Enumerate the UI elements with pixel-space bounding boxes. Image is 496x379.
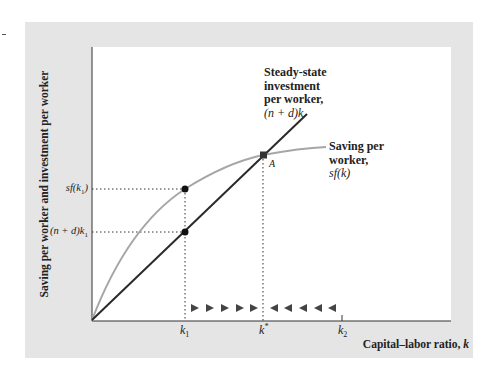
left-arrow-icon xyxy=(328,304,336,312)
x-tick-k2: k2 xyxy=(338,323,347,339)
saving-curve-label: Saving per worker, sf(k) xyxy=(329,140,384,181)
x-tick-k1: k1 xyxy=(180,323,189,339)
y-tick-sfk1-text: sf(k xyxy=(66,182,81,193)
x-axis-title-var: k xyxy=(463,338,469,350)
investment-label-line1: Steady-state xyxy=(264,66,327,80)
y-tick-sfk1-close: ) xyxy=(85,182,89,193)
x-tick-k1-sub: 1 xyxy=(185,330,189,339)
left-arrow-icon xyxy=(270,304,278,312)
steady-state-point-a xyxy=(260,152,267,159)
left-arrows xyxy=(270,304,336,312)
investment-line xyxy=(92,114,307,320)
saving-label-formula: sf(k) xyxy=(329,167,384,181)
saving-label-line2: worker, xyxy=(329,154,384,168)
y-tick-ndk1-sub: 1 xyxy=(85,231,89,239)
y-tick-sfk1: sf(k1) xyxy=(46,182,88,196)
left-arrow-icon xyxy=(314,304,322,312)
right-arrows xyxy=(191,304,258,312)
investment-line-label: Steady-state investment per worker, (n +… xyxy=(264,66,327,120)
x-tick-kstar-sup: * xyxy=(264,322,268,331)
y-tick-ndk1-text: (n + d)k xyxy=(50,225,85,236)
right-arrow-icon xyxy=(206,304,214,312)
right-arrow-icon xyxy=(250,304,258,312)
x-axis-title: Capital–labor ratio, k xyxy=(363,338,469,350)
saving-curve xyxy=(92,147,326,320)
right-arrow-icon xyxy=(236,304,244,312)
investment-label-formula: (n + d)k xyxy=(264,107,327,121)
saving-label-line1: Saving per xyxy=(329,140,384,154)
left-arrow-icon xyxy=(299,304,307,312)
investment-label-line2: investment xyxy=(264,80,327,94)
ndk1-point xyxy=(182,229,189,236)
left-arrow-icon xyxy=(284,304,292,312)
sfk1-point xyxy=(182,186,189,193)
x-tick-kstar: k* xyxy=(259,322,268,338)
y-tick-ndk1: (n + d)k1 xyxy=(38,225,88,239)
right-arrow-icon xyxy=(221,304,229,312)
x-axis-title-text: Capital–labor ratio, xyxy=(363,338,463,350)
investment-label-line3: per worker, xyxy=(264,93,327,107)
right-arrow-icon xyxy=(191,304,199,312)
x-tick-k2-sub: 2 xyxy=(343,330,347,339)
point-a-label: A xyxy=(269,158,275,169)
